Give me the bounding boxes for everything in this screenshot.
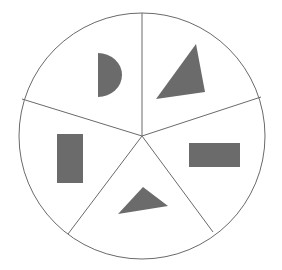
vertical-rectangle-shape [57, 134, 83, 183]
divided-circle-diagram [0, 0, 282, 270]
horizontal-rectangle-shape [189, 143, 240, 167]
